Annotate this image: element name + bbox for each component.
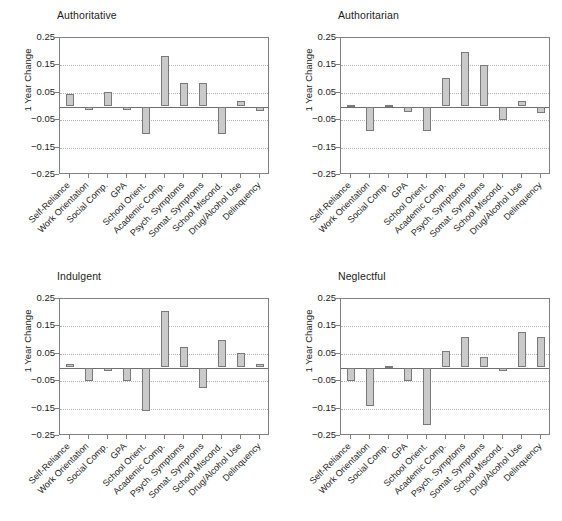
bar xyxy=(366,107,374,131)
bar xyxy=(518,101,526,106)
bar xyxy=(480,65,488,106)
x-tick-mark xyxy=(350,174,351,178)
bar xyxy=(442,78,450,107)
y-tick-label: −0.05 xyxy=(21,375,55,385)
x-tick-mark xyxy=(464,174,465,178)
bar xyxy=(104,368,112,371)
bar xyxy=(423,368,431,426)
panel-title: Authoritative xyxy=(57,9,117,21)
gridline xyxy=(60,409,268,410)
y-tick-label: 0.05 xyxy=(21,87,55,97)
bar xyxy=(218,340,226,367)
x-tick-mark xyxy=(88,174,89,178)
bar xyxy=(347,105,355,107)
x-tick-mark xyxy=(445,435,446,439)
x-tick-mark xyxy=(502,174,503,178)
x-tick-mark xyxy=(483,174,484,178)
y-tick-label: −0.15 xyxy=(21,403,55,413)
x-tick-mark xyxy=(183,435,184,439)
x-tick-mark xyxy=(407,435,408,439)
bar xyxy=(461,337,469,367)
x-tick-mark xyxy=(540,435,541,439)
bar xyxy=(423,107,431,131)
gridline xyxy=(341,409,549,410)
y-axis-ticks: 0.250.150.05−0.05−0.15−0.25 xyxy=(300,37,336,174)
y-tick-mark xyxy=(55,435,59,436)
figure-panel-grid: Authoritative1 Year Change0.250.150.05−0… xyxy=(0,0,562,521)
x-tick-mark xyxy=(464,435,465,439)
bar xyxy=(537,107,545,114)
panel-title: Indulgent xyxy=(57,270,101,282)
x-tick-mark xyxy=(164,435,165,439)
x-tick-mark xyxy=(388,435,389,439)
bar xyxy=(85,107,93,110)
bar xyxy=(256,364,264,367)
chart-panel: Neglectful1 Year Change0.250.150.05−0.05… xyxy=(281,261,562,521)
bar xyxy=(199,83,207,106)
y-tick-label: −0.15 xyxy=(302,403,336,413)
plot-area xyxy=(59,37,269,174)
panel-title: Authoritarian xyxy=(338,9,399,21)
bar xyxy=(237,101,245,106)
bar xyxy=(537,337,545,367)
y-tick-label: −0.25 xyxy=(302,430,336,440)
y-axis-ticks: 0.250.150.05−0.05−0.15−0.25 xyxy=(19,37,55,174)
plot-area xyxy=(340,37,550,174)
y-axis-ticks: 0.250.150.05−0.05−0.15−0.25 xyxy=(19,298,55,435)
bar xyxy=(142,368,150,411)
y-tick-label: 0.05 xyxy=(302,348,336,358)
x-tick-mark xyxy=(240,174,241,178)
gridline xyxy=(60,120,268,121)
x-tick-mark xyxy=(183,174,184,178)
x-tick-mark xyxy=(540,174,541,178)
y-tick-label: 0.25 xyxy=(21,32,55,42)
bar xyxy=(142,107,150,134)
x-tick-mark xyxy=(521,435,522,439)
y-tick-label: −0.15 xyxy=(302,142,336,152)
y-tick-mark xyxy=(55,174,59,175)
y-tick-label: 0.05 xyxy=(302,87,336,97)
bar xyxy=(461,52,469,107)
chart-panel: Authoritarian1 Year Change0.250.150.05−0… xyxy=(281,0,562,260)
gridline xyxy=(341,65,549,66)
bar xyxy=(256,107,264,111)
gridline xyxy=(60,381,268,382)
x-tick-mark xyxy=(126,435,127,439)
x-tick-mark xyxy=(259,435,260,439)
bar xyxy=(385,105,393,107)
bar xyxy=(480,357,488,368)
bar xyxy=(518,332,526,368)
y-tick-mark xyxy=(336,174,340,175)
gridline xyxy=(341,148,549,149)
x-tick-mark xyxy=(202,174,203,178)
y-tick-label: 0.25 xyxy=(302,293,336,303)
x-tick-mark xyxy=(388,174,389,178)
gridline xyxy=(60,148,268,149)
x-tick-mark xyxy=(445,174,446,178)
bar xyxy=(237,353,245,367)
x-tick-mark xyxy=(521,174,522,178)
x-tick-mark xyxy=(145,174,146,178)
x-tick-mark xyxy=(107,174,108,178)
bar xyxy=(442,351,450,367)
y-tick-label: 0.05 xyxy=(21,348,55,358)
y-tick-label: 0.25 xyxy=(302,32,336,42)
x-tick-mark xyxy=(202,435,203,439)
x-tick-mark xyxy=(221,174,222,178)
bar xyxy=(499,368,507,371)
gridline xyxy=(341,326,549,327)
x-tick-mark xyxy=(350,435,351,439)
bar xyxy=(104,92,112,106)
y-tick-label: −0.25 xyxy=(302,169,336,179)
x-tick-mark xyxy=(426,174,427,178)
y-tick-mark xyxy=(336,435,340,436)
bar xyxy=(404,368,412,382)
x-tick-mark xyxy=(69,435,70,439)
x-tick-mark xyxy=(259,174,260,178)
x-tick-mark xyxy=(107,435,108,439)
y-tick-label: 0.15 xyxy=(302,59,336,69)
y-tick-label: −0.05 xyxy=(21,114,55,124)
bar xyxy=(404,107,412,112)
x-tick-mark xyxy=(426,435,427,439)
bar xyxy=(161,311,169,367)
